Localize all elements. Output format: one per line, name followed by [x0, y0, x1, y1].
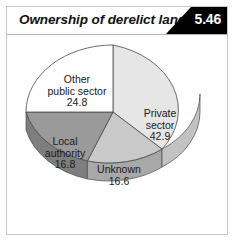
page-title: Ownership of derelict land [19, 12, 186, 27]
pie-chart-svg [7, 36, 227, 234]
figure-number: 5.46 [195, 11, 221, 27]
figure-panel: Ownership of derelict land 5.46 [0, 0, 234, 241]
pie-chart: Other public sector 24.8 Private sector … [7, 36, 227, 234]
title-divider [7, 34, 227, 35]
title-bar: Ownership of derelict land 5.46 [7, 7, 227, 35]
pie-slice-other-public-sector [26, 45, 113, 112]
